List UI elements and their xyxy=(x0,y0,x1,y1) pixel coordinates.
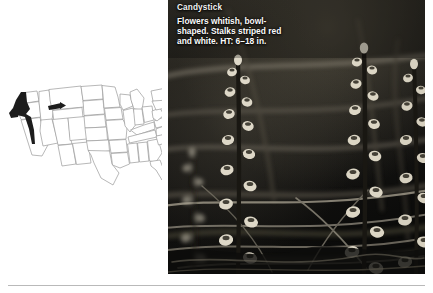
state-outlines xyxy=(18,81,162,185)
us-map-svg xyxy=(6,80,162,192)
candystick-plant-photo: Candystick Flowers whitish, bowl- shaped… xyxy=(168,0,425,274)
footer-divider xyxy=(8,285,425,286)
photo-text-overlay: Candystick Flowers whitish, bowl- shaped… xyxy=(177,2,281,47)
page-title: Candystick xyxy=(177,2,281,13)
description-line: and white. HT: 6–18 in. xyxy=(177,36,281,46)
range-map xyxy=(6,80,162,192)
field-guide-page: Candystick Flowers whitish, bowl- shaped… xyxy=(0,0,433,293)
plant-description: Flowers whitish, bowl- shaped. Stalks st… xyxy=(177,16,281,47)
description-line: Flowers whitish, bowl- xyxy=(177,16,281,26)
description-line: shaped. Stalks striped red xyxy=(177,26,281,36)
